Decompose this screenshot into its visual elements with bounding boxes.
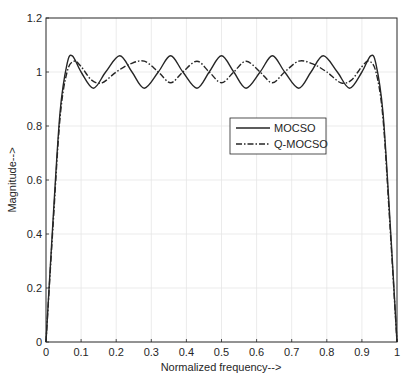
x-tick-label: 0.9 — [354, 346, 369, 358]
x-tick-label: 0.8 — [319, 346, 334, 358]
y-tick-label: 1 — [36, 66, 42, 78]
x-tick-label: 0.5 — [214, 346, 229, 358]
x-tick-label: 0.3 — [144, 346, 159, 358]
y-tick-label: 0.8 — [27, 120, 42, 132]
x-axis-label: Normalized frequency--> — [161, 361, 282, 373]
x-tick-label: 0.1 — [73, 346, 88, 358]
y-axis-label: Magnitude--> — [6, 147, 18, 212]
y-tick-label: 0.4 — [27, 228, 42, 240]
legend: MOCSO Q-MOCSO — [230, 118, 328, 154]
x-tick-label: 1 — [394, 346, 400, 358]
y-tick-label: 0 — [36, 336, 42, 348]
y-tick-label: 1.2 — [27, 12, 42, 24]
x-tick-label: 0.2 — [109, 346, 124, 358]
frequency-response-chart: 00.10.20.30.40.50.60.70.80.9100.20.40.60… — [0, 0, 413, 386]
x-tick-label: 0.6 — [249, 346, 264, 358]
legend-label-q-mocso: Q-MOCSO — [274, 138, 328, 150]
y-tick-label: 0.2 — [27, 282, 42, 294]
x-tick-label: 0 — [43, 346, 49, 358]
x-tick-label: 0.7 — [284, 346, 299, 358]
x-tick-label: 0.4 — [179, 346, 194, 358]
legend-label-mocso: MOCSO — [274, 122, 316, 134]
y-tick-label: 0.6 — [27, 174, 42, 186]
